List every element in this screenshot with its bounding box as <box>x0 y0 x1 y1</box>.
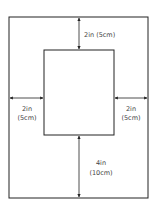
bottom-margin-label-2: (10cm) <box>89 169 112 177</box>
right-margin-label-2: (5cm) <box>121 114 140 122</box>
mat-margin-diagram: 2in (5cm) 2in (5cm) 2in (5cm) 4in (10cm) <box>0 0 162 208</box>
left-margin-label-2: (5cm) <box>17 114 36 122</box>
left-margin-label-1: 2in <box>22 105 32 113</box>
top-margin-label: 2in (5cm) <box>84 31 115 39</box>
right-margin-label-1: 2in <box>126 105 136 113</box>
bottom-margin-label-1: 4in <box>96 159 106 167</box>
inner-picture-area <box>44 50 114 135</box>
